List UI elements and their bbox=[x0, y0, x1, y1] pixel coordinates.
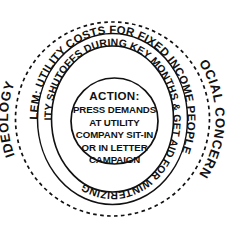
action-line-4: OR IN LETTER bbox=[81, 142, 147, 153]
concentric-strategy-diagram: IDEOLOGY SOCIAL CONCERNS PROBLEM: UTILIT… bbox=[0, 0, 225, 238]
action-line-3: COMPANY SIT-IN bbox=[76, 129, 153, 140]
action-line-1: PRESS DEMANDS bbox=[73, 104, 157, 115]
action-line-5: CAMPAIGN bbox=[89, 154, 140, 165]
action-heading: ACTION: bbox=[89, 89, 139, 102]
action-line-2: AT UTILITY bbox=[89, 117, 140, 128]
diagram-canvas: IDEOLOGY SOCIAL CONCERNS PROBLEM: UTILIT… bbox=[0, 0, 225, 238]
